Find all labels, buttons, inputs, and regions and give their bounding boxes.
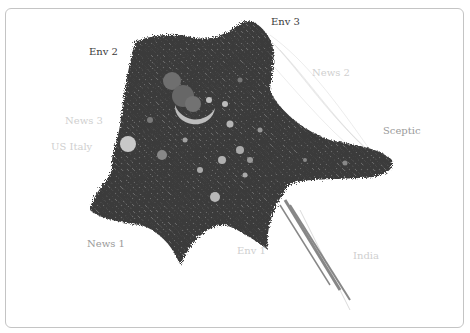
label-india: India [353,250,379,261]
label-env3: Env 3 [271,16,300,27]
label-news3: News 3 [65,115,103,126]
label-env1: Env 1 [237,245,266,256]
india-tail [280,200,350,310]
label-sceptic: Sceptic [383,125,421,136]
network-graph [0,0,470,333]
label-us-italy: US Italy [51,141,92,152]
label-news1: News 1 [87,238,125,249]
label-env2: Env 2 [89,46,118,57]
label-news2: News 2 [312,67,350,78]
